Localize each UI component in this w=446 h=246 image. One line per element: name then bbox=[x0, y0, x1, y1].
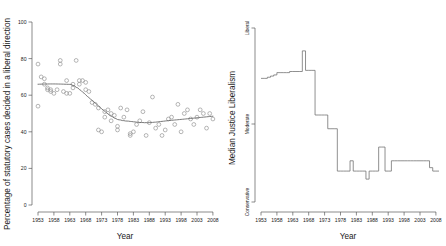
left-ytick-60: 60 bbox=[21, 92, 27, 98]
left-xtick-2003: 2003 bbox=[191, 217, 202, 223]
scatter-point bbox=[208, 112, 212, 116]
left-ytick-80: 80 bbox=[21, 56, 27, 62]
right-xtick-1968: 1968 bbox=[303, 217, 314, 223]
scatter-point bbox=[173, 123, 177, 127]
right-xtick-1998: 1998 bbox=[398, 217, 409, 223]
left-ytick-40: 40 bbox=[21, 129, 27, 135]
left-xtick-1953: 1953 bbox=[32, 217, 43, 223]
scatter-point-group bbox=[36, 59, 215, 138]
left-y-axis-title: Percentage of statutory cases decided in… bbox=[3, 18, 12, 231]
right-ytick-conservative: Conservative bbox=[245, 187, 250, 216]
left-ytick-100: 100 bbox=[18, 19, 27, 25]
median-justice-step-line bbox=[261, 51, 439, 179]
scatter-point bbox=[195, 115, 199, 119]
left-y-axis: 100 80 60 40 20 0 bbox=[18, 19, 32, 208]
scatter-point bbox=[84, 80, 88, 84]
scatter-point bbox=[192, 123, 196, 127]
scatter-point bbox=[125, 108, 129, 112]
scatter-point bbox=[160, 134, 164, 138]
left-x-axis: 1953 1958 1963 1968 1973 1978 1983 1988 … bbox=[32, 212, 218, 241]
left-xtick-1973: 1973 bbox=[96, 217, 107, 223]
scatter-point bbox=[74, 59, 78, 63]
right-xtick-1953: 1953 bbox=[255, 217, 266, 223]
left-x-axis-title: Year bbox=[117, 232, 134, 241]
scatter-point bbox=[52, 91, 56, 95]
scatter-point bbox=[109, 119, 113, 123]
two-panel-figure: Percentage of statutory cases decided in… bbox=[0, 0, 446, 246]
right-xtick-1988: 1988 bbox=[367, 217, 378, 223]
left-xtick-1963: 1963 bbox=[64, 217, 75, 223]
median-justice-plot-svg: Median Justice Liberalism Liberal Modera… bbox=[223, 0, 446, 246]
scatter-point bbox=[106, 108, 110, 112]
scatter-point bbox=[100, 130, 104, 134]
scatter-point bbox=[135, 123, 139, 127]
scatter-plot-svg: Percentage of statutory cases decided in… bbox=[0, 0, 223, 246]
right-ytick-liberal: Liberal bbox=[245, 21, 250, 36]
scatter-point bbox=[157, 123, 161, 127]
right-ytick-moderate: Moderate bbox=[245, 113, 250, 134]
left-ytick-20: 20 bbox=[21, 165, 27, 171]
right-x-axis-title: Year bbox=[340, 232, 357, 241]
scatter-point bbox=[87, 90, 91, 94]
scatter-point bbox=[163, 128, 167, 132]
left-xtick-1958: 1958 bbox=[48, 217, 59, 223]
right-xtick-1963: 1963 bbox=[287, 217, 298, 223]
left-xtick-2008: 2008 bbox=[207, 217, 218, 223]
scatter-point bbox=[116, 128, 120, 132]
right-xtick-1978: 1978 bbox=[335, 217, 346, 223]
right-xtick-2008: 2008 bbox=[430, 217, 441, 223]
right-xtick-1993: 1993 bbox=[383, 217, 394, 223]
scatter-point bbox=[103, 115, 107, 119]
scatter-point bbox=[201, 112, 205, 116]
scatter-point bbox=[36, 62, 40, 66]
left-xtick-1983: 1983 bbox=[128, 217, 139, 223]
scatter-point bbox=[179, 130, 183, 134]
scatter-point bbox=[55, 88, 59, 92]
right-xtick-1958: 1958 bbox=[271, 217, 282, 223]
scatter-point bbox=[170, 115, 174, 119]
left-xtick-1988: 1988 bbox=[144, 217, 155, 223]
scatter-point bbox=[205, 126, 209, 130]
right-xtick-2003: 2003 bbox=[414, 217, 425, 223]
scatter-point bbox=[144, 134, 148, 138]
scatter-point bbox=[182, 112, 186, 116]
scatter-point bbox=[77, 82, 81, 86]
scatter-point bbox=[154, 126, 158, 130]
right-y-axis: Liberal Moderate Conservative bbox=[245, 21, 256, 217]
scatter-point bbox=[141, 110, 145, 114]
scatter-point bbox=[198, 108, 202, 112]
left-xtick-1968: 1968 bbox=[80, 217, 91, 223]
panel-statutory-scatter: Percentage of statutory cases decided in… bbox=[0, 0, 223, 246]
scatter-point bbox=[186, 108, 190, 112]
right-xtick-1983: 1983 bbox=[351, 217, 362, 223]
scatter-point bbox=[122, 115, 126, 119]
scatter-point bbox=[58, 59, 62, 63]
right-xtick-1973: 1973 bbox=[319, 217, 330, 223]
scatter-point bbox=[65, 79, 69, 83]
scatter-point bbox=[119, 106, 123, 110]
scatter-point bbox=[176, 102, 180, 106]
left-ytick-0: 0 bbox=[24, 202, 27, 208]
left-xtick-1998: 1998 bbox=[175, 217, 186, 223]
scatter-point bbox=[36, 104, 40, 108]
scatter-point bbox=[132, 130, 136, 134]
scatter-point bbox=[116, 124, 120, 128]
scatter-point bbox=[58, 62, 62, 66]
left-xtick-1978: 1978 bbox=[112, 217, 123, 223]
left-xtick-1993: 1993 bbox=[160, 217, 171, 223]
scatter-point bbox=[71, 86, 75, 90]
right-x-axis: 1953 1958 1963 1968 1973 1978 1983 1988 … bbox=[255, 212, 441, 241]
panel-median-justice: Median Justice Liberalism Liberal Modera… bbox=[223, 0, 446, 246]
right-y-axis-title: Median Justice Liberalism bbox=[228, 71, 237, 165]
scatter-point bbox=[151, 95, 155, 99]
scatter-point bbox=[211, 117, 215, 121]
scatter-point bbox=[42, 77, 46, 81]
